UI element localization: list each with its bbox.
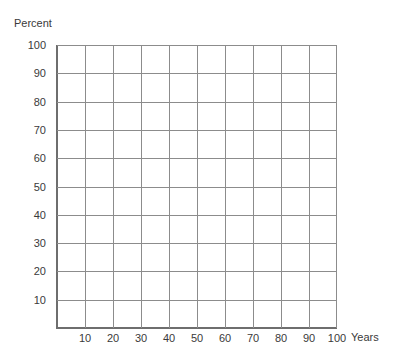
- grid-line-horizontal: [57, 243, 337, 244]
- x-tick-label: 10: [70, 332, 100, 344]
- x-tick-label: 20: [98, 332, 128, 344]
- y-tick-label: 10: [6, 294, 46, 306]
- grid-line-horizontal: [57, 158, 337, 159]
- grid-line-horizontal: [57, 215, 337, 216]
- grid-line-horizontal: [57, 73, 337, 74]
- y-tick-label: 100: [6, 39, 46, 51]
- y-axis-title: Percent: [14, 17, 52, 29]
- y-tick-label: 70: [6, 124, 46, 136]
- y-tick-label: 60: [6, 152, 46, 164]
- y-tick-label: 50: [6, 181, 46, 193]
- x-tick-label: 50: [182, 332, 212, 344]
- grid-line-horizontal: [57, 102, 337, 103]
- x-tick-label: 80: [266, 332, 296, 344]
- grid-line-horizontal: [57, 130, 337, 131]
- grid-line-horizontal: [57, 271, 337, 272]
- y-tick-label: 40: [6, 209, 46, 221]
- y-tick-label: 30: [6, 237, 46, 249]
- grid-line-horizontal: [57, 300, 337, 301]
- x-tick-label: 60: [210, 332, 240, 344]
- grid-line-horizontal: [57, 187, 337, 188]
- x-tick-label: 90: [294, 332, 324, 344]
- y-tick-label: 20: [6, 265, 46, 277]
- x-tick-label: 70: [238, 332, 268, 344]
- blank-grid-chart: Percent Years 100908070605040302010 1020…: [0, 0, 398, 362]
- grid-line-horizontal: [57, 45, 337, 46]
- y-tick-label: 90: [6, 67, 46, 79]
- plot-area: [57, 45, 337, 328]
- x-axis-title: Years: [351, 331, 379, 343]
- x-tick-label: 40: [154, 332, 184, 344]
- x-tick-label: 100: [322, 332, 352, 344]
- x-tick-label: 30: [126, 332, 156, 344]
- y-tick-label: 80: [6, 96, 46, 108]
